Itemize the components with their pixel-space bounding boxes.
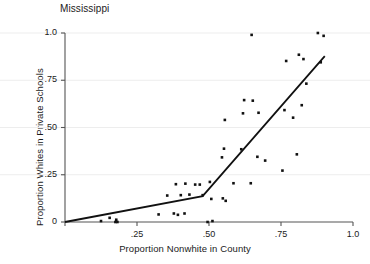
data-point	[249, 182, 252, 185]
data-point	[281, 169, 284, 172]
y-tick-label: .75	[31, 74, 57, 84]
data-point	[211, 220, 214, 223]
data-point	[243, 99, 246, 102]
y-tick-label: 1.0	[31, 27, 57, 37]
data-point	[292, 116, 295, 119]
data-point	[319, 61, 322, 64]
regression-line	[65, 56, 325, 222]
data-point	[285, 60, 288, 63]
data-point	[108, 217, 111, 220]
data-point	[224, 200, 227, 203]
data-point	[305, 82, 308, 85]
data-point	[242, 112, 245, 115]
data-point	[157, 213, 160, 216]
data-point	[232, 182, 235, 185]
data-point	[116, 221, 119, 224]
data-point	[201, 194, 204, 197]
data-point	[322, 35, 325, 38]
data-point	[175, 183, 178, 186]
tick-marks	[61, 33, 353, 226]
data-point	[221, 156, 224, 159]
data-point	[100, 220, 103, 223]
data-point	[224, 119, 227, 122]
data-point	[206, 221, 209, 224]
data-point	[198, 183, 201, 186]
data-point	[173, 212, 176, 215]
y-tick-label: .50	[31, 122, 57, 132]
data-point	[188, 193, 191, 196]
data-point	[115, 218, 118, 221]
data-point	[166, 194, 169, 197]
data-point	[300, 104, 303, 107]
y-tick-label: 0	[31, 216, 57, 226]
y-tick-label: .25	[31, 169, 57, 179]
x-tick-label: 1.0	[340, 229, 366, 239]
x-tick-label: .50	[196, 229, 222, 239]
x-tick-label: .75	[268, 229, 294, 239]
data-point	[179, 194, 182, 197]
data-point	[194, 183, 197, 186]
gridlines	[0, 33, 370, 175]
data-point	[257, 111, 260, 114]
data-point	[210, 198, 213, 201]
data-point	[283, 109, 286, 112]
data-point	[183, 212, 186, 215]
data-point	[298, 53, 301, 56]
data-point	[184, 182, 187, 185]
data-point	[209, 181, 212, 184]
chart-figure: Mississippi Proportion Whites in Private…	[0, 0, 370, 264]
data-point	[177, 214, 180, 217]
data-point	[256, 156, 259, 159]
x-tick-label: .25	[124, 229, 150, 239]
data-point	[302, 58, 305, 61]
data-point	[222, 197, 225, 200]
data-point	[296, 153, 299, 156]
data-point	[251, 99, 254, 102]
data-point	[223, 147, 226, 150]
data-point	[317, 32, 320, 35]
data-point	[250, 34, 253, 37]
data-point	[240, 148, 243, 151]
data-point	[264, 159, 267, 162]
